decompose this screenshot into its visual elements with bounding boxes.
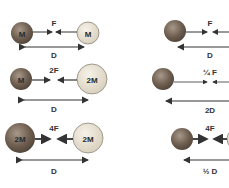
force-label: 4F [205,124,214,133]
mass-label: M [85,30,92,39]
force-label: ¼ F [203,68,217,77]
right-row-1 [164,20,229,47]
distance-label: ½ D [203,167,218,176]
force-label: F [208,19,213,28]
right-row-3 [171,128,229,160]
planet [171,128,193,150]
distance-label: D [51,167,57,176]
mass-label: M [18,76,25,85]
partial-planet [227,128,229,150]
mass-label: 2M [82,135,93,144]
distance-label: D [51,105,57,114]
force-label: 2F [49,66,58,75]
force-label: 4F [49,124,58,133]
planet [152,68,174,90]
force-label: F [52,19,57,28]
right-row-2 [152,68,229,101]
gravity-diagram [0,0,229,188]
distance-label: 2D [205,106,215,115]
mass-label: 2M [86,76,97,85]
distance-label: D [207,51,213,60]
distance-label: D [51,51,57,60]
planet [164,20,186,42]
mass-label: 2M [14,135,25,144]
mass-label: M [19,30,26,39]
